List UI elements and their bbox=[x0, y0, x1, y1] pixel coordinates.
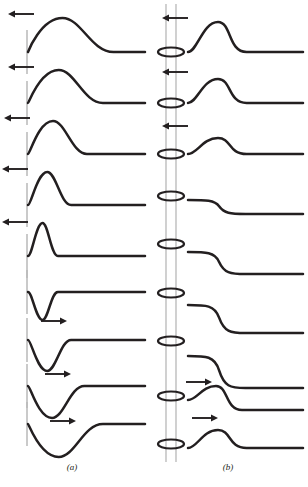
panel-a-row bbox=[27, 364, 145, 424]
rail-waveform-7 bbox=[188, 386, 303, 410]
panel-b-caption: (b) bbox=[223, 462, 234, 472]
panel-b-row bbox=[158, 337, 303, 389]
pulse-waveform-0 bbox=[28, 18, 145, 52]
panel-a-row bbox=[2, 219, 145, 278]
rail-ring-7 bbox=[158, 392, 184, 401]
rail-ring-4 bbox=[158, 240, 184, 249]
rail-ring-6 bbox=[158, 337, 184, 346]
panel-b bbox=[158, 4, 303, 462]
panel-a bbox=[2, 11, 145, 457]
direction-arrow-0-head bbox=[8, 11, 15, 18]
panel-a-row bbox=[27, 270, 145, 324]
panel-a-row bbox=[27, 318, 145, 377]
panel-b-row bbox=[158, 289, 303, 334]
direction-arrow-5-head bbox=[60, 318, 67, 325]
panel-a-row bbox=[27, 402, 145, 457]
panel-a-row bbox=[2, 166, 145, 227]
panel-a-caption: (a) bbox=[67, 462, 78, 472]
pulse-waveform-8 bbox=[28, 424, 145, 457]
panel-b-row bbox=[158, 192, 303, 215]
pulse-waveform-1 bbox=[28, 70, 145, 103]
panel-b-row bbox=[158, 15, 303, 57]
panel-a-row bbox=[8, 64, 145, 125]
pulse-waveform-7 bbox=[28, 386, 145, 418]
panel-b-row bbox=[158, 379, 303, 410]
direction-arrow-7-head bbox=[69, 418, 76, 425]
direction-arrow-3-head bbox=[2, 166, 9, 173]
pulse-waveform-5 bbox=[28, 292, 145, 320]
pulse-waveform-2 bbox=[28, 121, 145, 154]
rail-ring-1 bbox=[158, 99, 184, 108]
rail-waveform-1 bbox=[188, 79, 303, 103]
panel-a-row bbox=[4, 115, 145, 176]
pulse-propagation-figure: (a) (b) bbox=[0, 0, 308, 487]
rail-ring-5 bbox=[158, 289, 184, 298]
rail-waveform-4 bbox=[188, 252, 303, 274]
rail-waveform-5 bbox=[188, 305, 303, 333]
rail-ring-3 bbox=[158, 192, 184, 201]
pulse-waveform-4 bbox=[28, 223, 145, 256]
pulse-waveform-6 bbox=[28, 340, 145, 371]
rail-waveform-3 bbox=[188, 200, 303, 214]
rail-ring-0 bbox=[158, 48, 184, 57]
direction-arrow-4-head bbox=[2, 219, 9, 226]
panel-a-row bbox=[8, 11, 145, 74]
rail-waveform-0 bbox=[188, 22, 303, 52]
panel-b-row bbox=[158, 415, 303, 449]
direction-arrow-6-head bbox=[64, 371, 71, 378]
direction-arrow-b-7-head bbox=[205, 379, 212, 386]
rail-ring-8 bbox=[158, 440, 184, 449]
direction-arrow-1-head bbox=[8, 64, 15, 71]
rail-waveform-2 bbox=[188, 138, 303, 154]
direction-arrow-2-head bbox=[4, 115, 11, 122]
rail-waveform-8 bbox=[188, 430, 303, 448]
panel-b-row bbox=[158, 69, 303, 108]
figure-root: (a) (b) bbox=[0, 0, 308, 487]
direction-arrow-b-8-head bbox=[211, 415, 218, 422]
panel-b-row bbox=[158, 240, 303, 275]
rail-ring-2 bbox=[158, 150, 184, 159]
panel-b-row bbox=[158, 123, 303, 159]
pulse-waveform-3 bbox=[28, 172, 145, 205]
